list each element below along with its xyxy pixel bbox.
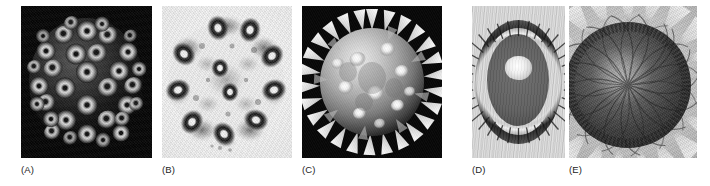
panel-b-axoneme-cross-section	[162, 6, 292, 158]
panel-a-label: (A)	[21, 164, 34, 175]
panel-d-image	[472, 6, 565, 158]
panel-e-sunflower-head	[569, 6, 697, 158]
panel-c-grain-texture	[302, 6, 442, 158]
panel-a-image	[21, 6, 152, 158]
panel-c-image	[302, 6, 442, 158]
panel-a-virus-capsid	[21, 6, 152, 158]
panel-d-spiny-cactus	[472, 6, 565, 158]
panel-c-label: (C)	[302, 164, 316, 175]
panel-d-grain-texture	[472, 6, 565, 158]
panel-e-image	[569, 6, 697, 158]
panel-c-pollen-grain	[302, 6, 442, 158]
panel-b-image	[162, 6, 292, 158]
panel-e-label: (E)	[569, 164, 582, 175]
panel-b-label: (B)	[162, 164, 175, 175]
panel-e-grain-texture	[569, 6, 697, 158]
figure-panel-row: (A)	[0, 0, 710, 186]
panel-d-label: (D)	[472, 164, 486, 175]
capsid-capsomeres	[21, 6, 152, 158]
panel-b-grain-texture	[162, 6, 292, 158]
